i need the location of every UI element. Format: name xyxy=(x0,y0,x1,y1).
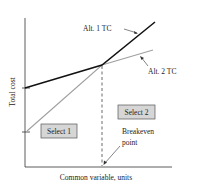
select1-label: Select 1 xyxy=(47,127,71,136)
x-axis-label: Common variable, units xyxy=(60,173,132,182)
alt1-arrowhead-icon xyxy=(134,31,138,34)
select2-label: Select 2 xyxy=(125,108,149,117)
breakeven-leader xyxy=(105,146,120,163)
breakeven-label-line2: point xyxy=(122,138,138,147)
alt2-arrowhead-icon xyxy=(140,56,144,60)
breakeven-label-line1: Breakeven xyxy=(122,127,154,136)
breakeven-chart: Alt. 1 TC Alt. 2 TC Select 1 Select 2 Br… xyxy=(0,0,203,184)
alt2-label: Alt. 2 TC xyxy=(148,67,176,76)
alt1-label: Alt. 1 TC xyxy=(83,24,111,33)
y-axis-label: Total cost xyxy=(8,76,17,106)
